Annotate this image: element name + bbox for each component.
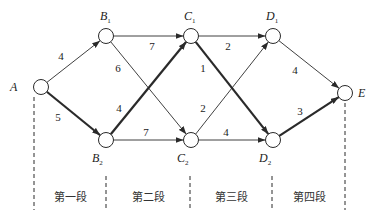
edge-weight-label: 4 [223, 126, 229, 138]
stage-label: 第二段 [132, 190, 165, 204]
edge-weight-label: 7 [149, 40, 155, 52]
edge-B1-C1: 7 [114, 36, 184, 52]
node-B2: B2 [92, 133, 114, 168]
edge-weight-label: 4 [116, 102, 122, 114]
multistage-network-diagram: 457647212443 AB1B2C1C2D1D2E 第一段第二段第三段第四段 [0, 0, 378, 224]
node-circle [266, 29, 281, 44]
node-E: E [338, 86, 367, 101]
node-D1: D1 [265, 9, 281, 44]
diagram-svg: 457647212443 AB1B2C1C2D1D2E 第一段第二段第三段第四段 [0, 0, 378, 224]
node-circle [266, 133, 281, 148]
node-circle [34, 80, 49, 95]
edge-weight-label: 5 [55, 111, 61, 123]
node-label: C1 [184, 9, 196, 25]
node-D2: D2 [258, 133, 281, 168]
edge-A-B2: 5 [47, 92, 100, 136]
node-label: D2 [258, 151, 272, 167]
edge-weight-label: 2 [225, 40, 231, 52]
edge-C2-D2: 4 [199, 126, 266, 140]
edge-arrow [279, 97, 338, 136]
edge-D2-E: 3 [279, 97, 338, 136]
edge-weight-label: 3 [297, 105, 303, 117]
edge-D1-E: 4 [279, 41, 339, 89]
node-B1: B1 [99, 9, 114, 44]
node-C1: C1 [184, 9, 199, 44]
edge-weight-label: 2 [200, 102, 206, 114]
node-label: E [357, 86, 366, 100]
node-circle [99, 29, 114, 44]
node-A: A [9, 80, 49, 95]
node-label: D1 [265, 9, 279, 25]
node-circle [184, 133, 199, 148]
edges: 457647212443 [47, 36, 339, 140]
stage-label: 第三段 [215, 190, 248, 204]
edge-arrow [47, 41, 100, 83]
node-label: B2 [92, 151, 103, 167]
edge-B2-C2: 7 [114, 126, 184, 140]
node-label: B1 [100, 9, 111, 25]
edge-weight-label: 6 [115, 62, 121, 74]
node-label: A [9, 80, 18, 94]
stage-label: 第四段 [293, 190, 326, 204]
node-circle [184, 29, 199, 44]
node-circle [99, 133, 114, 148]
edge-weight-label: 7 [143, 126, 149, 138]
node-circle [338, 86, 353, 101]
stage-label: 第一段 [54, 190, 87, 204]
node-C2: C2 [177, 133, 199, 168]
node-label: C2 [177, 151, 189, 167]
nodes: AB1B2C1C2D1D2E [9, 9, 366, 167]
edge-C1-D1: 2 [199, 36, 266, 52]
edge-A-B1: 4 [47, 41, 100, 83]
edge-weight-label: 1 [200, 62, 206, 74]
edge-weight-label: 4 [292, 64, 298, 76]
edge-weight-label: 4 [58, 50, 64, 62]
edge-arrow [279, 41, 339, 89]
